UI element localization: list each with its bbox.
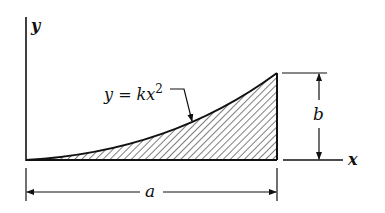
y-axis-label: y [30, 16, 42, 35]
curve-equation-base: y = kx [103, 85, 155, 104]
curve-equation-label: y = kx2 [103, 82, 163, 104]
x-axis-label: x [347, 150, 358, 169]
curve-equation-exponent: 2 [155, 82, 163, 96]
diagram-canvas: y x b a y = kx2 [0, 0, 385, 213]
a-dimension-label: a [145, 181, 155, 201]
curve-leader-line [170, 89, 192, 121]
b-dimension-label: b [313, 104, 324, 124]
